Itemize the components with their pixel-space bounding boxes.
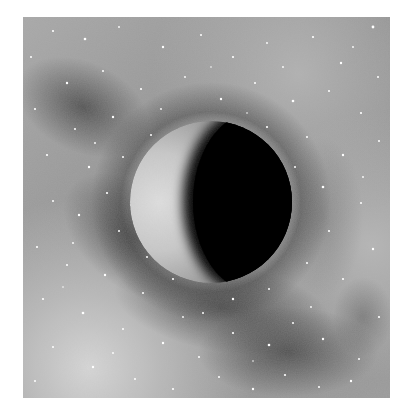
image-canvas (0, 0, 409, 408)
space-scene (23, 17, 390, 398)
space-illustration (23, 17, 390, 398)
